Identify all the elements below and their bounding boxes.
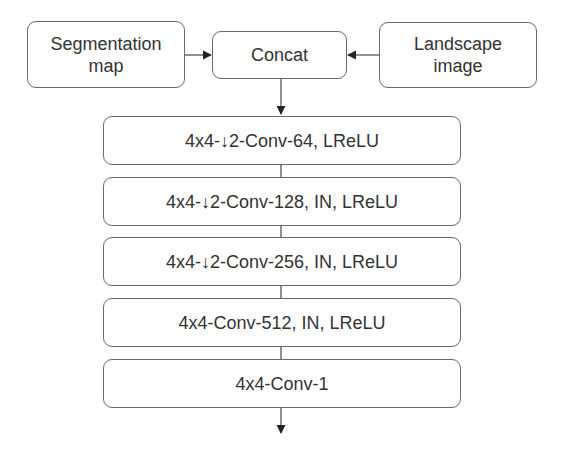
- layer-5-conv1: 4x4-Conv-1: [103, 359, 461, 408]
- segmentation-map-line1: Segmentation: [50, 33, 161, 55]
- layer-4-label: 4x4-Conv-512, IN, LReLU: [178, 312, 385, 334]
- layer-5-label: 4x4-Conv-1: [235, 373, 328, 395]
- landscape-image-line1: Landscape: [414, 33, 502, 55]
- layer-1-label: 4x4-↓2-Conv-64, LReLU: [185, 130, 379, 152]
- layer-3-conv256: 4x4-↓2-Conv-256, IN, LReLU: [103, 237, 461, 286]
- layer-4-conv512: 4x4-Conv-512, IN, LReLU: [103, 298, 461, 347]
- layer-3-label: 4x4-↓2-Conv-256, IN, LReLU: [166, 251, 398, 273]
- landscape-image-node: Landscape image: [379, 22, 537, 88]
- concat-node: Concat: [212, 31, 347, 79]
- concat-label: Concat: [251, 44, 308, 66]
- segmentation-map-line2: map: [50, 55, 161, 77]
- layer-1-conv64: 4x4-↓2-Conv-64, LReLU: [103, 116, 461, 165]
- layer-2-label: 4x4-↓2-Conv-128, IN, LReLU: [166, 191, 398, 213]
- segmentation-map-node: Segmentation map: [27, 21, 185, 88]
- layer-2-conv128: 4x4-↓2-Conv-128, IN, LReLU: [103, 177, 461, 226]
- landscape-image-line2: image: [414, 55, 502, 77]
